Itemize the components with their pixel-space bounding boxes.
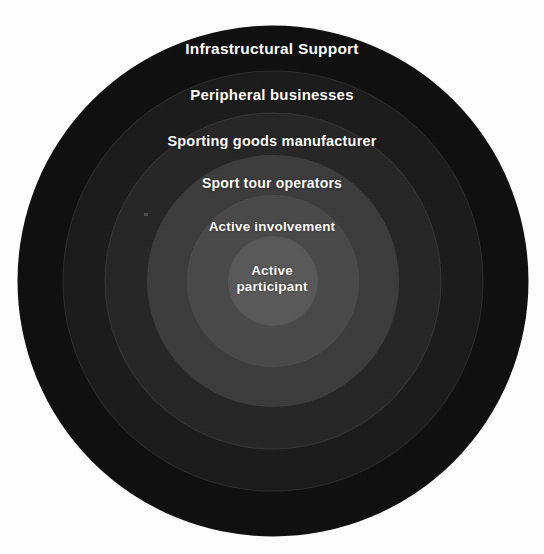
ring-active-participant <box>229 237 317 325</box>
scan-artifact-speck <box>144 213 148 216</box>
concentric-circles-diagram: Infrastructural Support Peripheral busin… <box>0 0 544 554</box>
